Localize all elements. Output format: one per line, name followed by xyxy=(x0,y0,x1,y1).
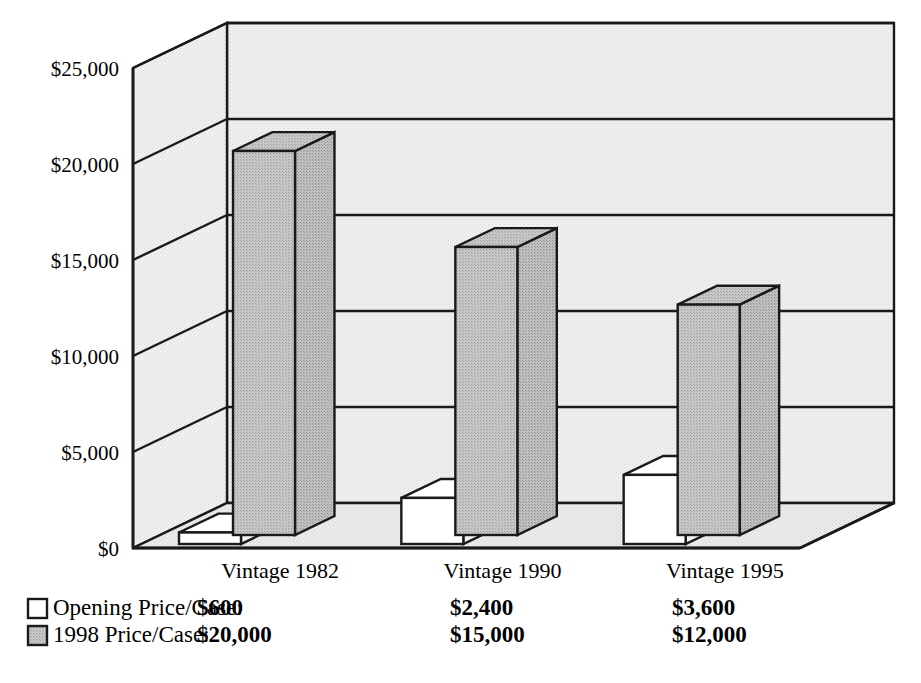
bar-1998-3-front xyxy=(678,305,740,535)
legend-value-r2-c3: $12,000 xyxy=(672,622,747,647)
chart-container: $0$5,000$10,000$15,000$20,000$25,000 Vin… xyxy=(0,0,921,683)
legend-value-r2-c2: $15,000 xyxy=(450,622,525,647)
bar-1998-2-front xyxy=(455,247,517,535)
bar-1998-2 xyxy=(455,228,556,535)
legend-value-r1-c3: $3,600 xyxy=(672,595,735,620)
bar-1998-3 xyxy=(678,286,779,535)
x-category-label-1: Vintage 1982 xyxy=(221,558,339,583)
bar-chart-3d: $0$5,000$10,000$15,000$20,000$25,000 Vin… xyxy=(0,0,921,683)
bar-1998-2-side xyxy=(517,228,556,535)
bar-opening-1-front xyxy=(179,532,241,544)
x-category-label-3: Vintage 1995 xyxy=(666,558,784,583)
y-tick-label: $20,000 xyxy=(51,153,119,177)
legend-swatch-1 xyxy=(28,599,47,618)
bar-opening-3-front xyxy=(624,475,686,544)
legend-swatch-2 xyxy=(28,626,47,645)
left-wall xyxy=(133,23,227,548)
legend-label-2: 1998 Price/Case: xyxy=(53,622,210,647)
bar-opening-2-front xyxy=(401,498,463,544)
x-category-label-2: Vintage 1990 xyxy=(444,558,562,583)
y-tick-label: $10,000 xyxy=(51,345,119,369)
bar-1998-1 xyxy=(233,132,334,535)
bar-1998-1-front xyxy=(233,151,295,535)
y-tick-label: $25,000 xyxy=(51,57,119,81)
bar-1998-3-side xyxy=(740,286,779,535)
legend-value-r1-c2: $2,400 xyxy=(450,595,513,620)
y-tick-label: $0 xyxy=(98,537,119,561)
legend-value-r2-c1: $20,000 xyxy=(197,622,272,647)
legend-value-r1-c1: $600 xyxy=(197,595,243,620)
y-tick-label: $5,000 xyxy=(61,441,119,465)
bar-1998-1-side xyxy=(295,132,334,535)
y-tick-label: $15,000 xyxy=(51,249,119,273)
x-axis-category-labels: Vintage 1982Vintage 1990Vintage 1995 xyxy=(221,558,783,583)
